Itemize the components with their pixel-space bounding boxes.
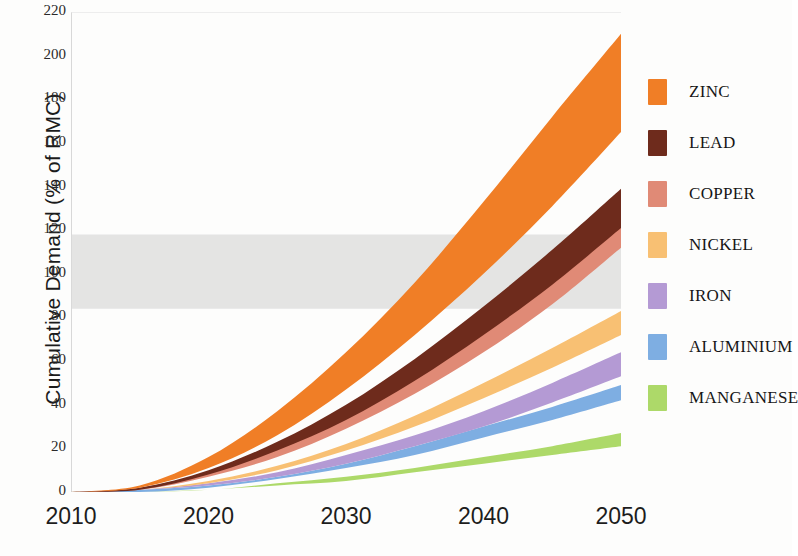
- legend-label: ALUMINIUM: [689, 337, 793, 357]
- chart-legend: ZINCLEADCOPPERNICKELIRONALUMINIUMMANGANE…: [648, 78, 792, 435]
- legend-label: LEAD: [689, 133, 736, 153]
- legend-item-lead: LEAD: [648, 129, 792, 157]
- legend-swatch-zinc: [648, 79, 667, 105]
- legend-item-manganese: MANGANESE: [648, 384, 792, 412]
- x-tick-2020: 2020: [154, 503, 264, 530]
- x-tick-2050: 2050: [566, 503, 676, 530]
- legend-swatch-lead: [648, 130, 667, 156]
- legend-label: MANGANESE: [689, 388, 798, 408]
- legend-label: COPPER: [689, 184, 755, 204]
- legend-label: NICKEL: [689, 235, 753, 255]
- legend-swatch-copper: [648, 181, 667, 207]
- legend-swatch-aluminium: [648, 334, 667, 360]
- legend-item-nickel: NICKEL: [648, 231, 792, 259]
- legend-item-zinc: ZINC: [648, 78, 792, 106]
- legend-item-aluminium: ALUMINIUM: [648, 333, 792, 361]
- legend-label: ZINC: [689, 82, 730, 102]
- legend-item-copper: COPPER: [648, 180, 792, 208]
- legend-item-iron: IRON: [648, 282, 792, 310]
- x-tick-2030: 2030: [291, 503, 401, 530]
- legend-swatch-nickel: [648, 232, 667, 258]
- x-tick-2040: 2040: [429, 503, 539, 530]
- x-tick-2010: 2010: [16, 503, 126, 530]
- legend-swatch-iron: [648, 283, 667, 309]
- legend-label: IRON: [689, 286, 732, 306]
- legend-swatch-manganese: [648, 385, 667, 411]
